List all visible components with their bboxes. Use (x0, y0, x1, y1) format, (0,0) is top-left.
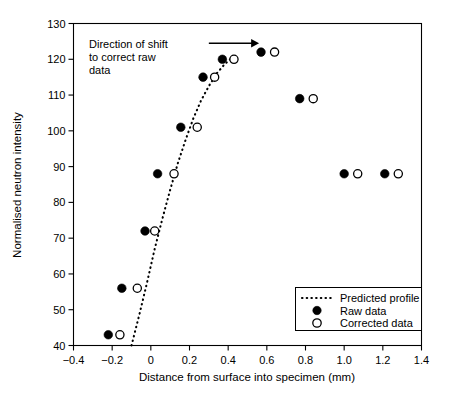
x-tick-label: 0.8 (298, 354, 313, 366)
x-tick-label: 0.6 (259, 354, 274, 366)
x-axis-title: Distance from surface into specimen (mm) (139, 371, 355, 383)
x-tick-label: −0.2 (101, 354, 123, 366)
raw-data-point (141, 227, 150, 236)
chart-legend: Predicted profile Raw data Corrected dat… (296, 288, 422, 331)
raw-data-point (118, 284, 127, 293)
x-tick-label: −0.4 (63, 354, 85, 366)
raw-data-point (295, 94, 304, 103)
y-tick-label: 100 (47, 125, 65, 137)
y-tick-label: 90 (53, 161, 65, 173)
raw-data-point (177, 123, 186, 132)
corrected-data-point (151, 227, 159, 235)
corrected-data-point (309, 95, 317, 103)
corrected-data-point (270, 48, 278, 56)
y-tick-label: 130 (47, 18, 65, 30)
corrected-data-point (170, 170, 178, 178)
raw-data-point (340, 169, 349, 178)
x-tick-label: 0 (148, 354, 154, 366)
raw-data-point (257, 48, 266, 57)
corrected-data-point (116, 331, 124, 339)
corrected-data-point (394, 170, 402, 178)
corrected-data-point (354, 170, 362, 178)
x-tick-label: 1.4 (414, 354, 429, 366)
corrected-data-point (133, 284, 141, 292)
neutron-intensity-scatter-chart: 405060708090100110120130 −0.4−0.200.20.4… (0, 0, 449, 399)
y-tick-label: 60 (53, 268, 65, 280)
legend-label-raw-data: Raw data (340, 305, 387, 317)
corrected-data-point (211, 73, 219, 81)
y-tick-label: 70 (53, 232, 65, 244)
raw-data-point (153, 169, 162, 178)
x-tick-label: 0.2 (182, 354, 197, 366)
raw-data-point (199, 73, 208, 82)
x-tick-label: 1.2 (375, 354, 390, 366)
raw-data-point (104, 330, 113, 339)
annotation-line-1: Direction of shift (89, 38, 168, 50)
y-axis-title: Normalised neutron intensity (11, 112, 23, 258)
legend-open-circle-icon (313, 319, 321, 327)
annotation-line-2: to correct raw (89, 51, 156, 63)
legend-filled-circle-icon (313, 306, 321, 314)
legend-label-predicted-profile: Predicted profile (340, 292, 420, 304)
x-tick-label: 1.0 (337, 354, 352, 366)
figure-root: 405060708090100110120130 −0.4−0.200.20.4… (0, 0, 449, 399)
y-tick-label: 110 (48, 89, 66, 101)
raw-data-point (218, 55, 227, 64)
annotation-line-3: data (89, 64, 111, 76)
y-tick-label: 40 (53, 340, 65, 352)
raw-data-point (380, 169, 389, 178)
corrected-data-point (230, 55, 238, 63)
corrected-data-point (193, 123, 201, 131)
y-tick-label: 50 (53, 304, 65, 316)
legend-label-corrected-data: Corrected data (340, 317, 414, 329)
x-tick-label: 0.4 (221, 354, 236, 366)
y-tick-label: 80 (53, 196, 65, 208)
y-tick-label: 120 (47, 53, 65, 65)
